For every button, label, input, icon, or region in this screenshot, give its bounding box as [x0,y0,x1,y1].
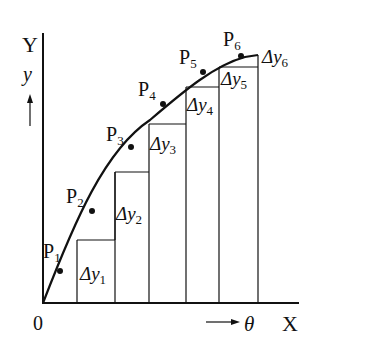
label-dy6: Δy6 [261,46,289,70]
label-dy1: Δy1 [79,263,106,287]
point-p1 [57,268,63,274]
point-p3 [128,144,134,150]
curve-points [57,53,244,274]
label-dy5: Δy5 [220,68,247,92]
y-arrowhead-icon [27,94,33,103]
x-arrowhead-icon [231,319,240,325]
origin-label: 0 [33,312,43,334]
point-p2 [89,208,95,214]
point-p4 [160,101,166,107]
label-dy2: Δy2 [115,203,142,227]
x-var-label: θ [244,312,254,336]
step-lines [77,55,258,303]
diagram-canvas: Y X 0 y θ P1 P2 P3 P4 P5 P6 Δy1 Δy2 Δy3 … [0,0,365,354]
point-p6 [238,53,244,59]
x-axis-label: X [282,311,298,336]
delta-labels: Δy1 Δy2 Δy3 Δy4 Δy5 Δy6 [79,46,289,287]
label-p6: P6 [223,28,241,53]
label-p4: P4 [138,78,156,103]
label-dy3: Δy3 [149,133,176,157]
label-p2: P2 [66,185,84,210]
label-p1: P1 [43,240,61,265]
point-p5 [200,69,206,75]
label-dy4: Δy4 [186,94,214,118]
y-var-label: y [21,63,32,86]
label-p5: P5 [179,46,197,71]
label-p3: P3 [106,123,124,148]
y-axis-label: Y [22,32,38,57]
